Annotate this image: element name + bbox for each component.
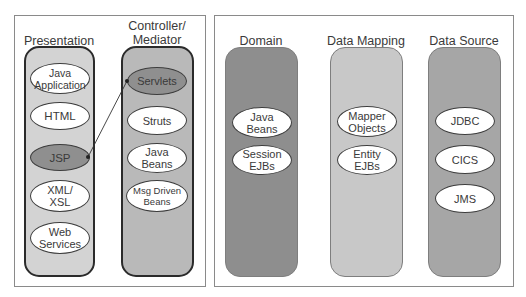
- node-controller-java-beans[interactable]: Java Beans: [127, 143, 187, 173]
- column-title-data-mapping: Data Mapping: [318, 34, 414, 48]
- node-servlets[interactable]: Servlets: [127, 67, 187, 95]
- node-mapper-objects[interactable]: Mapper Objects: [337, 106, 397, 137]
- column-title-domain: Domain: [220, 34, 302, 48]
- node-html[interactable]: HTML: [30, 102, 90, 130]
- node-session-ejbs[interactable]: Session EJBs: [232, 145, 292, 175]
- node-cics[interactable]: CICS: [435, 145, 495, 174]
- node-msg-driven-beans[interactable]: Msg Driven Beans: [126, 180, 188, 212]
- node-java-application[interactable]: Java Application: [30, 63, 90, 94]
- node-jdbc[interactable]: JDBC: [435, 107, 495, 135]
- column-title-data-source: Data Source: [418, 34, 510, 48]
- node-jsp[interactable]: JSP: [30, 144, 90, 171]
- node-xml-xsl[interactable]: XML/ XSL: [30, 180, 90, 212]
- node-struts[interactable]: Struts: [127, 106, 187, 135]
- node-jms[interactable]: JMS: [435, 184, 495, 213]
- column-title-controller-mediator: Controller/ Mediator: [113, 19, 201, 47]
- node-domain-java-beans[interactable]: Java Beans: [232, 107, 292, 138]
- node-entity-ejbs[interactable]: Entity EJBs: [337, 145, 397, 175]
- node-web-services[interactable]: Web Services: [30, 222, 90, 254]
